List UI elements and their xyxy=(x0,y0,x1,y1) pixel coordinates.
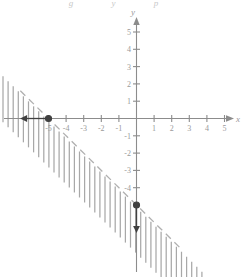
x-tick-label: 3 xyxy=(187,124,191,133)
tick-labels: -5-4-3-2-112345-4-3-2-112345 xyxy=(45,28,226,193)
y-tick-label: 2 xyxy=(127,80,131,89)
x-tick-label: -5 xyxy=(45,124,52,133)
axis-labels: xy xyxy=(130,7,240,124)
x-tick-label: -4 xyxy=(63,124,70,133)
y-tick-label: 4 xyxy=(127,45,131,54)
boundary-line xyxy=(20,91,182,250)
y-tick-label: 1 xyxy=(127,97,131,106)
y-tick-label: 3 xyxy=(127,63,131,72)
x-axis-label: x xyxy=(235,114,240,124)
data-point xyxy=(134,202,140,208)
coordinate-plane: -5-4-3-2-112345-4-3-2-112345 xy xyxy=(0,0,245,277)
x-tick-label: -1 xyxy=(116,124,123,133)
graph-figure: g y p -5-4-3-2-112345-4-3-2-112345 xy xyxy=(0,0,245,277)
y-tick-label: -3 xyxy=(124,166,131,175)
y-tick-label: -1 xyxy=(124,132,131,141)
x-tick-label: 4 xyxy=(205,124,209,133)
x-tick-label: 5 xyxy=(223,124,227,133)
x-tick-label: 1 xyxy=(152,124,156,133)
y-tick-label: 5 xyxy=(127,28,131,37)
shaded-region-hatch xyxy=(3,76,202,277)
y-axis-label: y xyxy=(130,7,135,17)
y-tick-label: -2 xyxy=(124,149,131,158)
x-tick-label: -3 xyxy=(80,124,87,133)
x-tick-label: -2 xyxy=(98,124,105,133)
y-tick-label: -4 xyxy=(124,184,131,193)
data-point xyxy=(46,116,52,122)
x-tick-label: 2 xyxy=(170,124,174,133)
